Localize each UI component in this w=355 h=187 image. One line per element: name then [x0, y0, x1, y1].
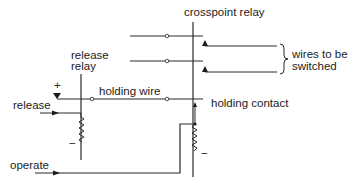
release-arrow-icon [52, 111, 59, 116]
holding-wire-node-2 [165, 97, 169, 101]
crosspoint-relay-circuit-diagram: crosspoint relay wires to be switched ho… [0, 0, 355, 187]
contact-node-1 [165, 34, 169, 38]
wires-to-be-switched-label-1: wires to be [291, 48, 348, 60]
curly-brace-icon [280, 44, 288, 74]
wires-to-be-switched-label-2: switched [292, 60, 337, 72]
contact-node-2 [165, 59, 169, 63]
holding-contact-label: holding contact [211, 97, 289, 109]
contact-triangle-1 [202, 40, 208, 46]
supply-triangle-icon [53, 93, 61, 99]
operate-label: operate [10, 159, 49, 171]
release-minus-sign: − [69, 137, 76, 149]
holding-contact-arrow-icon [193, 102, 197, 107]
release-relay-label-2: relay [71, 60, 96, 72]
holding-wire-node-1 [90, 97, 94, 101]
operate-arrow-icon [53, 171, 60, 176]
holding-wire-label: holding wire [99, 85, 160, 97]
crosspoint-relay-label: crosspoint relay [184, 6, 265, 18]
plus-sign: + [54, 79, 61, 91]
crosspoint-minus-sign: − [201, 147, 208, 159]
operate-line [35, 124, 195, 173]
release-label: release [13, 99, 51, 111]
contact-triangle-2 [202, 66, 208, 72]
